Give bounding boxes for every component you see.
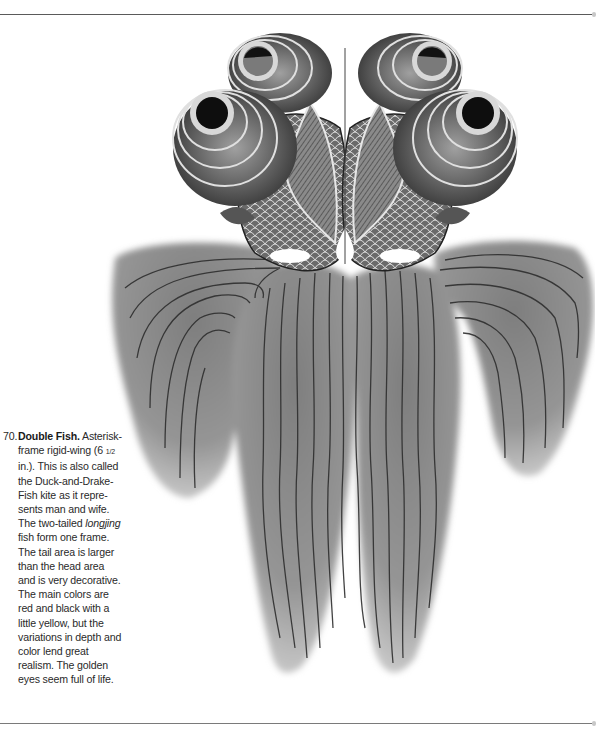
caption-line: red and black with a [18, 601, 155, 615]
caption-line: sents man and wife. [18, 502, 155, 516]
rule-end-cap [592, 12, 596, 17]
double-fish-kite-illustration [95, 28, 595, 688]
caption-line: frame rigid-wing (6 1/2 [18, 443, 155, 459]
fraction: 1/2 [106, 448, 115, 455]
figure-title: Double Fish. [18, 430, 80, 442]
top-rule [0, 14, 593, 15]
caption-line: fish form one frame. [18, 530, 155, 544]
caption-line: The main colors are [18, 587, 155, 601]
rule-end-cap [592, 721, 596, 726]
caption-line: Double Fish. Asterisk- [18, 429, 155, 443]
bottom-rule [0, 723, 593, 724]
caption-line: little yellow, but the [18, 616, 155, 630]
caption-line: color lend great [18, 644, 155, 658]
caption-line: The tail area is larger [18, 545, 155, 559]
caption-line: realism. The golden [18, 658, 155, 672]
caption-line: variations in depth and [18, 630, 155, 644]
italic-term: longjing [85, 517, 120, 529]
caption-line: in.). This is also called [18, 459, 155, 473]
figure-number: 70. [3, 429, 17, 443]
caption-line: and is very decorative. [18, 573, 155, 587]
tail-lobes [112, 241, 593, 673]
figure-caption: 70. Double Fish. Asterisk- frame rigid-w… [3, 429, 155, 687]
caption-line: Fish kite as it repre- [18, 488, 155, 502]
caption-line: eyes seem full of life. [18, 672, 155, 686]
caption-line: than the head area [18, 559, 155, 573]
caption-line: The two-tailed longjing [18, 516, 155, 530]
caption-line: the Duck-and-Drake- [18, 474, 155, 488]
